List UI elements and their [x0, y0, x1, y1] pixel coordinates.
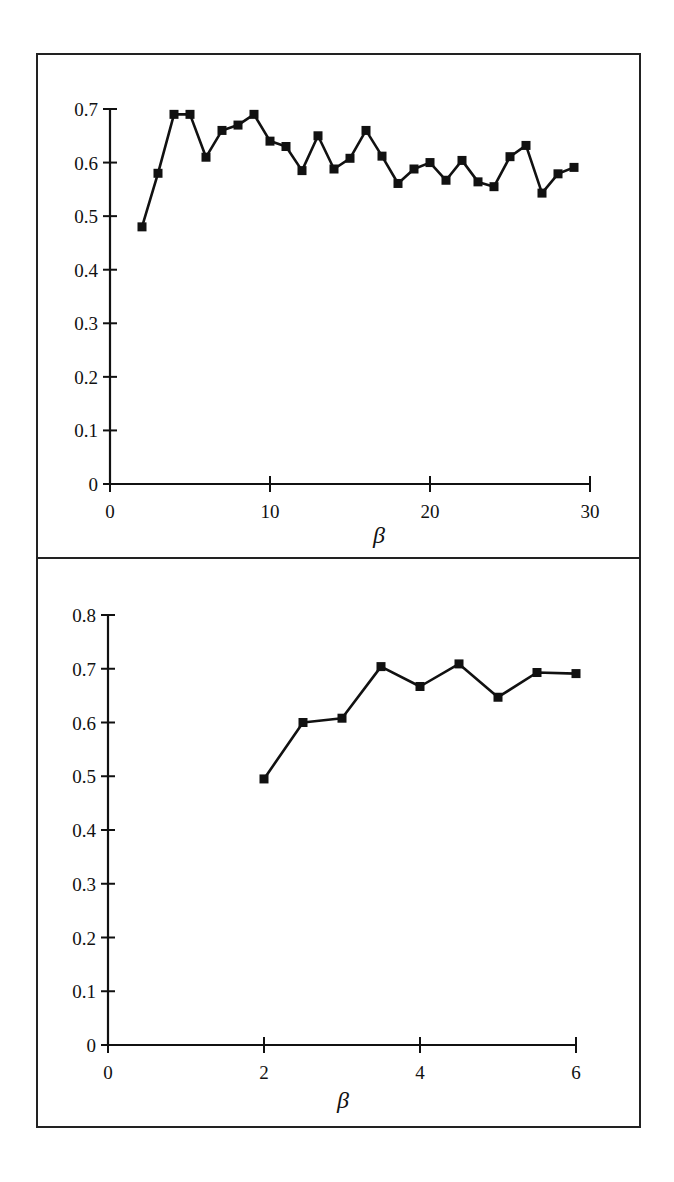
top-chart: 00.10.20.30.40.50.60.7 0102030 β [74, 99, 599, 548]
data-point-marker [570, 163, 579, 172]
data-point-marker [282, 142, 291, 151]
y-tick-label: 0.5 [74, 206, 98, 227]
data-point-marker [538, 189, 547, 198]
data-point-marker [522, 141, 531, 150]
top-x-tick-labels: 0102030 [105, 501, 599, 522]
data-point-marker [572, 669, 581, 678]
y-tick-label: 0.4 [74, 260, 98, 281]
bottom-axes [101, 615, 576, 1053]
data-point-marker [362, 126, 371, 135]
data-point-marker [234, 121, 243, 130]
data-point-marker [378, 152, 387, 161]
data-point-marker [506, 152, 515, 161]
data-point-marker [416, 682, 425, 691]
bottom-x-axis-label: β [336, 1087, 349, 1113]
data-point-marker [410, 165, 419, 174]
data-point-marker [218, 126, 227, 135]
data-point-marker [186, 110, 195, 119]
figure: 00.10.20.30.40.50.60.7 0102030 β 00.10.2… [0, 0, 674, 1182]
y-tick-label: 0.1 [74, 420, 98, 441]
data-point-marker [458, 156, 467, 165]
figure-frame [37, 54, 640, 1127]
top-series-line [142, 114, 574, 226]
data-point-marker [299, 718, 308, 727]
data-point-marker [346, 154, 355, 163]
data-point-marker [455, 659, 464, 668]
y-tick-label: 0.1 [72, 981, 96, 1002]
x-tick-label: 4 [415, 1062, 425, 1083]
top-x-axis-label: β [372, 522, 385, 548]
x-tick-label: 30 [581, 501, 600, 522]
y-tick-label: 0 [87, 1035, 97, 1056]
x-tick-label: 2 [259, 1062, 269, 1083]
x-tick-label: 0 [105, 501, 115, 522]
data-point-marker [298, 166, 307, 175]
data-point-marker [394, 179, 403, 188]
data-point-marker [250, 110, 259, 119]
y-tick-label: 0.6 [74, 153, 98, 174]
bottom-y-tick-labels: 00.10.20.30.40.50.60.70.8 [72, 605, 96, 1056]
data-point-marker [202, 153, 211, 162]
y-tick-label: 0.7 [72, 659, 96, 680]
bottom-x-tick-labels: 0246 [103, 1062, 581, 1083]
data-point-marker [533, 668, 542, 677]
data-point-marker [266, 137, 275, 146]
y-tick-label: 0.2 [74, 367, 98, 388]
data-point-marker [490, 182, 499, 191]
bottom-chart: 00.10.20.30.40.50.60.70.8 0246 β [72, 605, 581, 1113]
y-tick-label: 0.3 [74, 313, 98, 334]
data-point-marker [474, 177, 483, 186]
bottom-series-line [264, 664, 576, 779]
data-point-marker [138, 222, 147, 231]
y-tick-label: 0.8 [72, 605, 96, 626]
data-point-marker [377, 662, 386, 671]
x-tick-label: 0 [103, 1062, 113, 1083]
data-point-marker [426, 158, 435, 167]
y-tick-label: 0.3 [72, 874, 96, 895]
data-point-marker [170, 110, 179, 119]
top-series-markers [138, 110, 579, 232]
data-point-marker [330, 165, 339, 174]
y-tick-label: 0 [89, 474, 99, 495]
y-tick-label: 0.2 [72, 928, 96, 949]
data-point-marker [442, 176, 451, 185]
data-point-marker [494, 693, 503, 702]
y-tick-label: 0.5 [72, 766, 96, 787]
top-y-tick-labels: 00.10.20.30.40.50.60.7 [74, 99, 98, 495]
y-tick-label: 0.6 [72, 713, 96, 734]
data-point-marker [338, 714, 347, 723]
x-tick-label: 10 [261, 501, 280, 522]
x-tick-label: 6 [571, 1062, 581, 1083]
y-tick-label: 0.7 [74, 99, 98, 120]
top-axes [103, 109, 590, 492]
y-tick-label: 0.4 [72, 820, 96, 841]
x-tick-label: 20 [421, 501, 440, 522]
data-point-marker [314, 131, 323, 140]
data-point-marker [554, 169, 563, 178]
data-point-marker [154, 169, 163, 178]
data-point-marker [260, 774, 269, 783]
